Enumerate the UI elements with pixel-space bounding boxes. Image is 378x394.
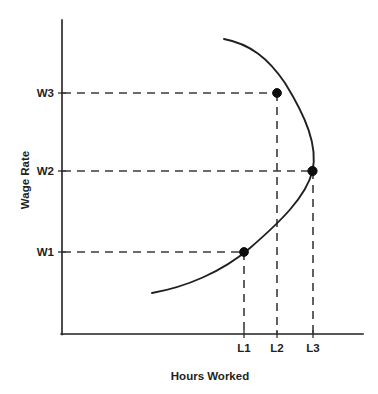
y-axis-title: Wage Rate (19, 151, 31, 209)
labor-supply-curve (152, 39, 314, 293)
chart-canvas: W3 W2 W1 L1 L2 L3 Wage Rate Hours Worked (0, 0, 378, 394)
data-point-l3-w2 (308, 166, 317, 175)
x-tick-label-l3: L3 (306, 342, 319, 354)
y-tick-label-w1: W1 (37, 246, 55, 258)
y-tick-label-w3: W3 (37, 87, 54, 99)
y-tick-label-w2: W2 (37, 165, 54, 177)
data-point-l2-w3 (273, 89, 282, 98)
data-point-l1-w1 (240, 248, 249, 257)
labor-supply-chart: W3 W2 W1 L1 L2 L3 Wage Rate Hours Worked (0, 0, 378, 394)
x-tick-label-l1: L1 (237, 342, 251, 354)
x-tick-label-l2: L2 (270, 342, 283, 354)
x-axis-title: Hours Worked (171, 370, 249, 382)
